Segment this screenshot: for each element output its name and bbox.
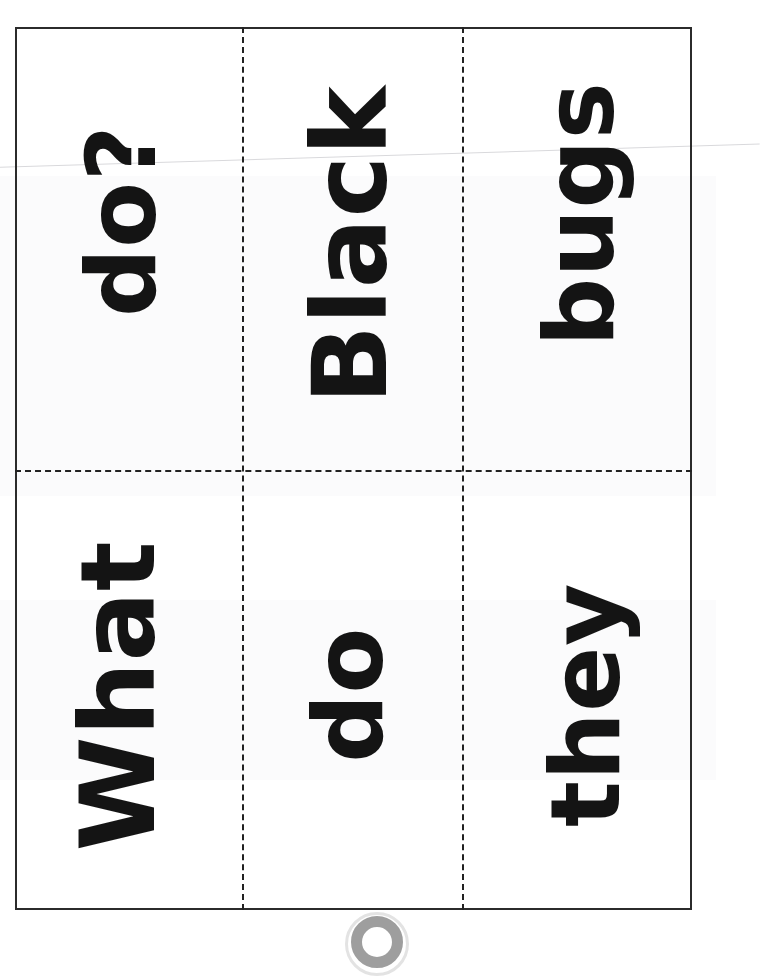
word-text: they <box>538 583 634 827</box>
word-text: do <box>301 627 397 763</box>
word-text: bugs <box>532 81 628 346</box>
word-card-black[interactable]: Black <box>242 29 462 470</box>
word-text: do? <box>73 125 169 317</box>
word-card-they[interactable]: they <box>462 470 692 910</box>
binder-ring-shadow-icon <box>351 916 403 968</box>
word-text: Black <box>298 85 402 403</box>
card-grid: do? Black bugs What do they <box>15 27 692 910</box>
word-card-bugs[interactable]: bugs <box>462 29 692 470</box>
word-card-do-question[interactable]: do? <box>17 29 242 470</box>
binder-ring-shadow-halo <box>345 912 409 976</box>
word-card-what[interactable]: What <box>17 470 242 910</box>
word-card-do[interactable]: do <box>242 470 462 910</box>
word-text: What <box>67 541 171 852</box>
